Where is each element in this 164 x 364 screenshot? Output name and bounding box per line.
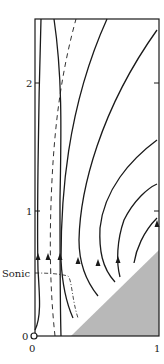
streamline <box>61 19 107 318</box>
x-tick-label-0: 0 <box>29 343 35 354</box>
arrow-up-icon <box>58 253 63 260</box>
streamline-diagram: 2 1 0 0 1 Sonic <box>0 0 164 364</box>
y-tick-label-2: 2 <box>26 78 32 89</box>
origin-marker <box>31 333 37 339</box>
streamline <box>35 19 41 330</box>
x-tick-label-1: 1 <box>154 343 160 354</box>
arrow-up-icon <box>116 256 121 263</box>
sonic-label: Sonic <box>2 268 31 279</box>
sonic-line <box>35 273 78 318</box>
flow-arrows <box>36 220 160 266</box>
y-tick-label-0: 0 <box>22 331 28 342</box>
arrow-up-icon <box>46 253 51 260</box>
shaded-body-region <box>71 250 159 336</box>
arrow-up-icon <box>36 253 41 260</box>
dashed-streamline <box>50 19 76 336</box>
arrow-up-icon <box>96 259 101 266</box>
arrow-up-icon <box>76 257 81 264</box>
y-tick-label-1: 1 <box>26 206 32 217</box>
streamline <box>54 19 61 336</box>
